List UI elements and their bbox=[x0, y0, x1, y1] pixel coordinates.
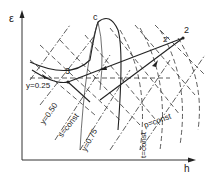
point-3-marker bbox=[66, 80, 69, 83]
process-line-3-2 bbox=[68, 38, 183, 82]
process-line-2-1 bbox=[100, 38, 183, 100]
isotherm-label: t=const bbox=[139, 131, 148, 158]
y-axis-label: ε bbox=[9, 12, 14, 24]
isentrope-label: s=const bbox=[56, 111, 81, 139]
point-2-marker bbox=[181, 36, 184, 39]
point-3-label: 3 bbox=[65, 66, 70, 76]
y-axis-arrow-icon bbox=[20, 10, 25, 18]
quality-label-050: y=0.50 bbox=[38, 101, 60, 126]
point-2-label: 2 bbox=[184, 25, 189, 35]
quality-label-075: y=0.75 bbox=[80, 127, 100, 153]
x-axis-arrow-icon bbox=[188, 158, 196, 163]
dome-inner-curve-2 bbox=[98, 22, 102, 90]
state-diagram: ε h c 2 2' 3 bbox=[0, 0, 212, 178]
x-axis-label: h bbox=[184, 163, 190, 174]
isotherm-lines bbox=[120, 28, 199, 150]
point-c-label: c bbox=[93, 12, 98, 22]
isobar-label: p=const bbox=[143, 111, 173, 129]
point-2p-label: 2' bbox=[163, 35, 169, 44]
process-arrow-icon bbox=[100, 66, 107, 70]
quality-label-025: y=0.25 bbox=[26, 81, 51, 90]
process-line-3-1 bbox=[68, 82, 90, 102]
